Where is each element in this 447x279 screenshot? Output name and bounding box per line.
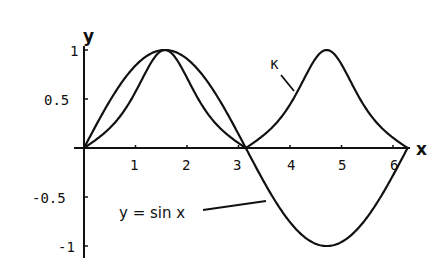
x-tick-label-1: 1 bbox=[130, 157, 138, 173]
x-axis-label: x bbox=[416, 139, 427, 159]
sine-label: y = sin x bbox=[119, 204, 185, 222]
curvature-curve bbox=[84, 50, 408, 148]
kappa-label: κ bbox=[270, 55, 279, 73]
chart-canvas: 1 2 3 4 5 6 1 0.5 -0.5 -1 y x κ y = sin … bbox=[0, 0, 447, 279]
x-tick-label-4: 4 bbox=[287, 157, 295, 173]
y-tick-label-neg0.5: -0.5 bbox=[32, 190, 66, 206]
kappa-pointer bbox=[281, 75, 294, 91]
x-tick-label-3: 3 bbox=[233, 157, 241, 173]
y-axis-label: y bbox=[83, 26, 94, 46]
y-tick-label-0.5: 0.5 bbox=[44, 92, 69, 108]
x-tick-label-6: 6 bbox=[390, 157, 398, 173]
x-tick-label-5: 5 bbox=[338, 157, 346, 173]
x-tick-label-2: 2 bbox=[182, 157, 190, 173]
sine-pointer bbox=[203, 201, 266, 210]
y-tick-label-neg1: -1 bbox=[58, 239, 75, 255]
y-tick-label-1: 1 bbox=[70, 43, 78, 59]
